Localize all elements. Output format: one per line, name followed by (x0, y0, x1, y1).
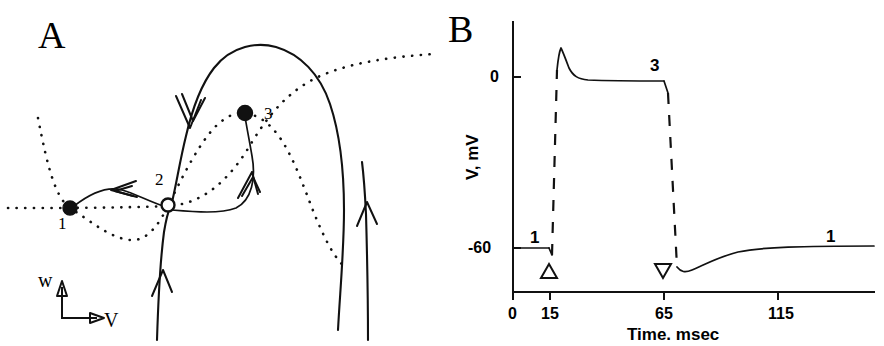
v-nullcline-dotted-curve (38, 113, 346, 268)
y-tick-label-minus60: -60 (468, 240, 491, 256)
fixed-point-3-label: 3 (264, 105, 273, 122)
panel-b-plot (442, 0, 884, 346)
fixed-point-3-stable-node (238, 106, 253, 121)
arrow-up-lower-vertical (152, 270, 172, 296)
trace-label-plateau: 3 (650, 57, 659, 74)
trace-upstroke-dashed (552, 70, 557, 255)
axis-label-w: w (38, 270, 52, 290)
trace-downstroke-dashed (668, 93, 677, 267)
figure-container: A (0, 0, 884, 346)
fixed-point-1-stable-node (63, 201, 77, 215)
trajectory-lower-vertical (157, 208, 170, 340)
trace-label-rest-end: 1 (826, 228, 835, 245)
x-axis-title: Time. msec (627, 326, 719, 343)
panel-a-letter: A (38, 16, 65, 54)
trace-overshoot-and-plateau (557, 48, 664, 81)
stimulus-on-up-triangle-icon (541, 264, 557, 278)
panel-b-letter: B (448, 10, 473, 48)
y-tick-label-0: 0 (490, 69, 499, 85)
trajectory-to-node-3 (172, 116, 253, 212)
x-tick-label-0: 0 (508, 306, 517, 322)
fixed-point-1-label: 1 (58, 215, 67, 232)
trace-offset-lip (664, 81, 668, 93)
w-nullcline-dotted-curve (8, 54, 434, 208)
trajectory-right-vertical (362, 162, 368, 340)
x-tick-label-65: 65 (655, 306, 673, 322)
trace-label-rest-start: 1 (530, 229, 539, 246)
x-tick-label-15: 15 (541, 306, 559, 322)
panel-b-voltage-trace: B (442, 0, 884, 346)
panel-a-plot (0, 0, 442, 346)
stimulus-off-down-triangle-icon (655, 264, 671, 278)
trace-undershoot-recovery (677, 246, 874, 272)
y-axis-title: V, mV (464, 134, 481, 180)
fixed-point-2-saddle (162, 199, 175, 212)
panel-a-phase-plane: A (0, 0, 442, 346)
x-tick-label-115: 115 (768, 306, 794, 322)
axis-label-v: V (104, 310, 118, 330)
fixed-point-2-label: 2 (155, 171, 164, 188)
